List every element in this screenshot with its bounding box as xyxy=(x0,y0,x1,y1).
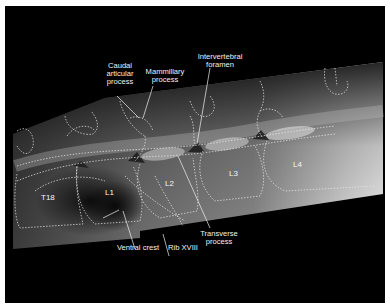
annotation-caudal-articular-process: Caudal articular process xyxy=(102,62,138,86)
radiograph-frame: Caudal articular process Mammillary proc… xyxy=(5,6,385,303)
annotation-ventral-crest: Ventral crest xyxy=(112,244,164,252)
vertebra-label-l2: L2 xyxy=(165,179,174,188)
vertebra-label-l4: L4 xyxy=(293,160,302,169)
vertebra-label-l3: L3 xyxy=(229,169,238,178)
radiograph-image xyxy=(5,6,385,303)
annotation-intervertebral-foramen: Intervertebral foramen xyxy=(189,53,251,69)
vertebra-label-t18: T18 xyxy=(41,193,55,202)
vertebra-label-l1: L1 xyxy=(105,188,114,197)
annotation-mammillary-process: Mammillary process xyxy=(141,68,189,84)
annotation-transverse-process: Transverse process xyxy=(196,230,242,246)
